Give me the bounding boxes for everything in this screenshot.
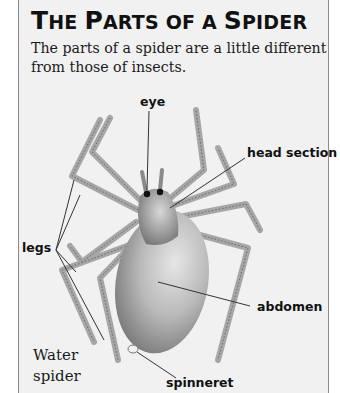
- spider-eye: [157, 189, 163, 195]
- spider-eye: [144, 191, 150, 197]
- label-eye: eye: [140, 94, 165, 109]
- spider-spinneret: [128, 345, 138, 353]
- label-head-section: head section: [247, 145, 337, 160]
- caption-line: spider: [33, 366, 81, 387]
- label-legs: legs: [22, 240, 51, 255]
- caption-line: Water: [33, 345, 81, 366]
- label-abdomen: abdomen: [257, 299, 322, 314]
- label-spinneret: spinneret: [166, 375, 234, 390]
- figure-caption: Water spider: [33, 345, 81, 387]
- spider-illustration: [0, 0, 340, 393]
- spider-palps: [142, 170, 162, 192]
